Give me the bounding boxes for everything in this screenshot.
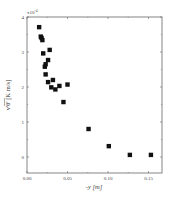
data-point-square bbox=[46, 80, 50, 84]
data-point-square bbox=[37, 25, 41, 29]
axis-ticks bbox=[27, 17, 162, 173]
data-point-square bbox=[57, 84, 61, 88]
y-tick-label: 2 bbox=[22, 85, 25, 90]
y-axis-label: v'θ' [K m/s] bbox=[4, 80, 12, 110]
data-point-square bbox=[40, 38, 44, 42]
y-tick-label: 0 bbox=[22, 155, 25, 160]
y-tick-label: 3 bbox=[22, 50, 25, 55]
x-tick-label: 0.10 bbox=[104, 176, 113, 181]
data-point-square bbox=[43, 62, 47, 66]
data-point-square bbox=[51, 78, 55, 82]
data-point-square bbox=[65, 82, 69, 86]
y-axis-label-group: v'θ' [K m/s] bbox=[4, 80, 12, 110]
y-multiplier: x10-4 bbox=[27, 9, 38, 15]
data-point-square bbox=[149, 153, 153, 157]
x-axis-label: -y [m] bbox=[86, 183, 103, 191]
x-tick-label: 0.00 bbox=[23, 176, 32, 181]
data-point-square bbox=[46, 58, 50, 62]
data-point-square bbox=[49, 85, 53, 89]
data-points bbox=[37, 25, 153, 157]
data-point-square bbox=[43, 72, 47, 76]
x-tick-label: 0.15 bbox=[144, 176, 153, 181]
data-point-square bbox=[47, 48, 51, 52]
data-point-square bbox=[41, 51, 45, 55]
y-tick-label: 4 bbox=[22, 15, 25, 20]
data-point-square bbox=[107, 144, 111, 148]
data-point-square bbox=[86, 127, 90, 131]
y-tick-label: 1 bbox=[22, 120, 25, 125]
plot-frame bbox=[27, 17, 162, 173]
x-tick-label: 0.05 bbox=[63, 176, 72, 181]
data-point-square bbox=[53, 87, 57, 91]
data-point-square bbox=[61, 100, 65, 104]
scatter-chart: 0.000.050.100.1501234 x10-4 -y [m] v'θ' … bbox=[0, 0, 183, 204]
data-point-square bbox=[128, 153, 132, 157]
